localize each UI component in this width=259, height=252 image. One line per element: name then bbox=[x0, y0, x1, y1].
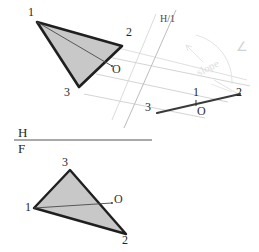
edge-view-label-3: 3 bbox=[145, 101, 151, 113]
top-view-vertex-label-3: 3 bbox=[64, 86, 70, 98]
edge-view-label-o: O bbox=[197, 105, 206, 117]
drawing-sheet: 1 2 3 O H/1 slope ∠ 3 1 O 2 H F 3 1 2 O bbox=[0, 0, 259, 252]
front-view-vertex-label-3: 3 bbox=[62, 156, 68, 168]
edge-view-label-1: 1 bbox=[193, 86, 199, 98]
slope-angle-symbol: ∠ bbox=[236, 40, 248, 53]
projector-line-from-2 bbox=[108, 57, 250, 86]
front-view-triangle-fill bbox=[34, 170, 126, 234]
top-view-point-label-o: O bbox=[112, 63, 121, 75]
front-view-point-o-marker bbox=[111, 202, 113, 204]
front-view-vertex-label-2: 2 bbox=[122, 234, 128, 246]
projector-line-from-o bbox=[96, 74, 228, 102]
angle-vertex-line-b bbox=[211, 84, 232, 92]
front-view-triangle-group bbox=[34, 170, 126, 234]
front-view-vertex-label-1: 1 bbox=[25, 201, 31, 213]
top-view-vertex-label-1: 1 bbox=[28, 6, 34, 18]
angle-vertex-line-a bbox=[214, 80, 238, 94]
reference-label-h: H bbox=[18, 126, 27, 139]
slope-arrow-leader bbox=[187, 46, 203, 62]
fold-line-label-h1: H/1 bbox=[160, 14, 175, 24]
top-view-vertex-label-2: 2 bbox=[126, 26, 132, 38]
edge-view-label-2: 2 bbox=[236, 86, 242, 98]
front-view-point-label-o: O bbox=[114, 193, 123, 205]
reference-label-f: F bbox=[18, 142, 25, 155]
projector-line-from-1 bbox=[118, 48, 247, 80]
